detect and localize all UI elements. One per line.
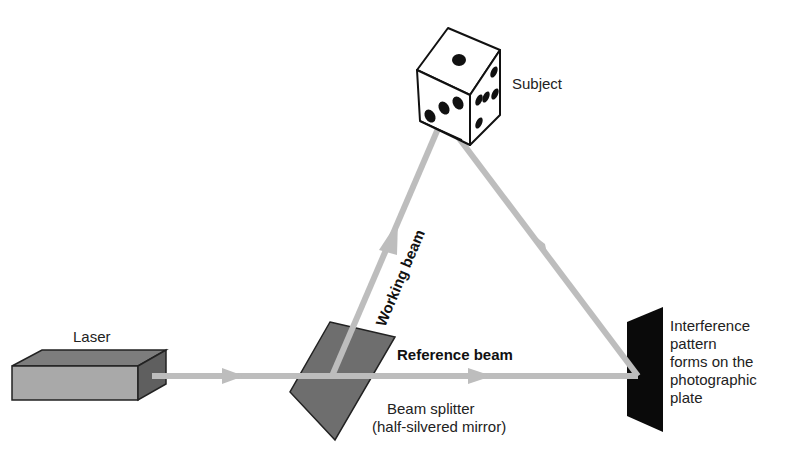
- subject-die: [417, 28, 500, 145]
- beam-splitter-label: Beam splitter (half-silvered mirror): [372, 400, 506, 436]
- die-pip: [452, 54, 466, 66]
- reference-beam-label: Reference beam: [397, 346, 513, 364]
- arrow-laser-beam: [222, 368, 244, 384]
- arrow-working-beam: [379, 221, 398, 255]
- photographic-plate-label: Interference pattern forms on the photog…: [670, 317, 757, 407]
- beam-splitter-label-line2: (half-silvered mirror): [372, 418, 506, 436]
- beam-splitter-label-line1: Beam splitter: [372, 400, 506, 418]
- laser-front-face: [12, 366, 138, 400]
- plate-label-line5: plate: [670, 389, 757, 407]
- plate-label-line1: Interference: [670, 317, 757, 335]
- arrow-reference-beam: [468, 368, 492, 384]
- subject-label: Subject: [512, 75, 562, 93]
- plate-label-line3: forms on the: [670, 353, 757, 371]
- laser: [12, 350, 166, 400]
- laser-label: Laser: [73, 328, 111, 346]
- plate-label-line4: photographic: [670, 371, 757, 389]
- plate-label-line2: pattern: [670, 335, 757, 353]
